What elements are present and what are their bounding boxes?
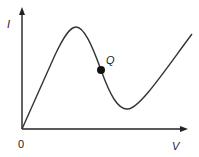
- point-q-marker: [97, 66, 105, 74]
- x-axis-label: V: [172, 140, 179, 152]
- iv-characteristic-diagram: [0, 0, 199, 157]
- point-q-label: Q: [106, 54, 115, 66]
- x-axis-arrow-icon: [180, 126, 188, 132]
- y-axis-arrow-icon: [19, 7, 25, 15]
- origin-label: 0: [18, 138, 24, 150]
- iv-curve: [22, 27, 192, 129]
- y-axis-label: I: [7, 18, 10, 30]
